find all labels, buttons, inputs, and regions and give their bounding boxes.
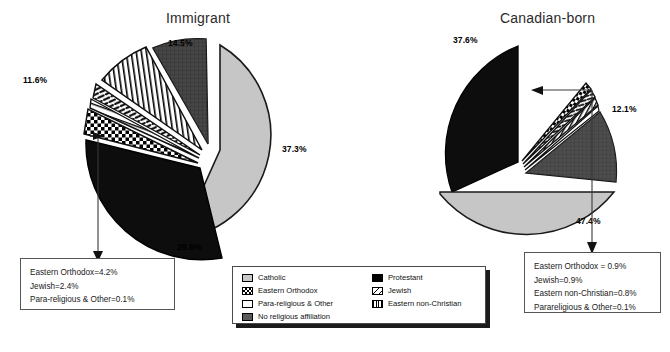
legend-box: Catholic Eastern Orthodox Para-religious… (232, 266, 486, 324)
immigrant-callout-line-1: Eastern Orthodox=4.2% (30, 266, 165, 280)
immigrant-callout-line-2: Jewish=2.4% (30, 280, 165, 294)
slice-catholic (440, 192, 614, 234)
canadian-callout-box: Eastern Orthodox = 0.9% Jewish=0.9% East… (524, 252, 661, 313)
para-religious-swatch (242, 300, 253, 308)
catholic-swatch (242, 274, 253, 282)
immigrant-callout-line-3: Para-religious & Other=0.1% (30, 293, 165, 307)
immigrant-label-eastern-non-christian: 11.6% (23, 75, 47, 85)
canadian-callout-line-4: Parareligious & Other=0.1% (534, 301, 651, 315)
legend-label-para-religious: Para-religious & Other (258, 299, 333, 308)
immigrant-label-no-affiliation: 29.9% (177, 242, 202, 252)
immigrant-pie-chart: 14.5% 11.6% 37.3% 29.9% (10, 22, 330, 272)
legend-label-catholic: Catholic (258, 273, 285, 282)
chart-canvas: Immigrant Canadian-born (0, 0, 670, 352)
eastern-non-christian-swatch (372, 300, 383, 308)
no-affiliation-swatch (242, 313, 253, 321)
immigrant-label-catholic: 37.3% (282, 144, 307, 154)
jewish-swatch (372, 287, 383, 295)
legend-item-jewish: Jewish (372, 285, 482, 296)
eastern-orthodox-swatch (242, 287, 253, 295)
legend-label-eastern-non-christian: Eastern non-Christian (388, 299, 461, 308)
legend-item-catholic: Catholic (242, 272, 372, 283)
canadian-label-no-affiliation: 12.1% (612, 104, 637, 114)
legend-item-eastern-non-christian: Eastern non-Christian (372, 298, 482, 309)
legend-label-no-affiliation: No religious affiliation (258, 312, 330, 321)
slice-protestant (445, 46, 518, 192)
canadian-label-catholic: 47.4% (576, 216, 601, 226)
legend-item-para-religious: Para-religious & Other (242, 298, 372, 309)
immigrant-callout-box: Eastern Orthodox=4.2% Jewish=2.4% Para-r… (20, 258, 175, 310)
canadian-label-protestant: 37.6% (453, 35, 478, 45)
protestant-swatch (372, 274, 383, 282)
canadian-callout-line-3: Eastern non-Christian=0.8% (534, 287, 651, 301)
legend-item-no-affiliation: No religious affiliation (242, 311, 372, 322)
legend-label-protestant: Protestant (388, 273, 423, 282)
legend-column-right: Protestant Jewish Eastern non-Christian (372, 272, 482, 322)
canadian-callout-line-2: Jewish=0.9% (534, 274, 651, 288)
legend-label-jewish: Jewish (388, 286, 411, 295)
legend-column-left: Catholic Eastern Orthodox Para-religious… (242, 272, 372, 322)
legend-label-eastern-orthodox: Eastern Orthodox (258, 286, 318, 295)
legend-item-protestant: Protestant (372, 272, 482, 283)
canadian-born-pie-chart: 37.6% 12.1% 47.4% (430, 22, 670, 282)
legend-item-eastern-orthodox: Eastern Orthodox (242, 285, 372, 296)
canadian-callout-line-1: Eastern Orthodox = 0.9% (534, 260, 651, 274)
immigrant-label-protestant: 14.5% (168, 38, 193, 48)
